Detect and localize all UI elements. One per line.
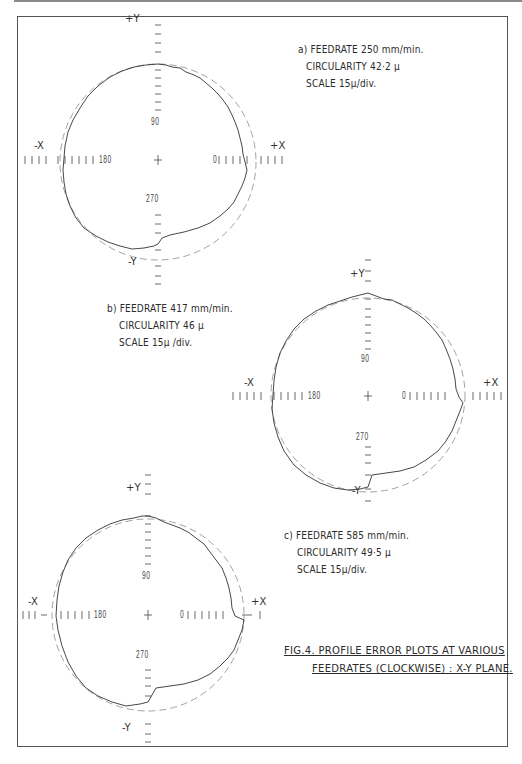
plot-a-deg-0: 0 [213, 153, 217, 165]
plot-c-graphic [20, 470, 280, 760]
plot-c-label-feedrate: c) FEEDRATE 585 mm/min. [284, 530, 409, 541]
plot-a-label-feedrate: a) FEEDRATE 250 mm/min. [298, 44, 424, 55]
plot-a-deg-180: 180 [99, 153, 112, 165]
plot-b-pos-y-label: +Y [350, 268, 365, 279]
plot-b-label-circularity: CIRCULARITY 46 µ [119, 320, 204, 331]
plot-b-deg-180: 180 [308, 389, 321, 401]
plot-c-label-circularity: CIRCULARITY 49·5 µ [297, 547, 391, 558]
plot-a-deg-90: 90 [151, 115, 160, 127]
plot-a-neg-x-label: -X [34, 140, 44, 151]
plot-c-pos-y-label: +Y [126, 482, 141, 493]
plot-c-deg-90: 90 [142, 569, 151, 581]
plot-a-pos-y-label: +Y [125, 13, 140, 24]
plot-b-pos-x-label: +X [483, 377, 498, 388]
plot-a-label-scale: SCALE 15µ/div. [306, 78, 376, 89]
plot-c-label-scale: SCALE 15µ/div. [297, 564, 367, 575]
figure-caption-line2: FEEDRATES (CLOCKWISE) : X-Y PLANE. [312, 663, 513, 674]
plot-c-pos-x-label: +X [251, 596, 266, 607]
plot-b-deg-0: 0 [402, 389, 406, 401]
plot-b-deg-90: 90 [361, 352, 370, 364]
plot-c-neg-x-label: -X [28, 596, 38, 607]
plot-b-neg-x-label: -X [244, 377, 254, 388]
plot-c: +Y -Y -X +X 90 180 0 270 [20, 470, 280, 760]
top-rule [14, 0, 522, 2]
plot-c-neg-y-label: -Y [122, 722, 131, 733]
plot-b-deg-270: 270 [356, 430, 369, 442]
plot-a-deg-270: 270 [146, 192, 159, 204]
figure-caption-line1: FIG.4. PROFILE ERROR PLOTS AT VARIOUS [284, 645, 505, 656]
plot-b-neg-y-label: -Y [352, 485, 361, 496]
plot-b-label-feedrate: b) FEEDRATE 417 mm/min. [107, 303, 233, 314]
plot-a-label-circularity: CIRCULARITY 42·2 µ [306, 61, 400, 72]
plot-c-deg-0: 0 [180, 608, 184, 620]
plot-a-neg-y-label: -Y [128, 256, 137, 267]
plot-b-label-scale: SCALE 15µ /div. [119, 337, 192, 348]
plot-c-deg-180: 180 [94, 608, 107, 620]
plot-c-deg-270: 270 [136, 648, 149, 660]
plot-a-pos-x-label: +X [270, 140, 285, 151]
